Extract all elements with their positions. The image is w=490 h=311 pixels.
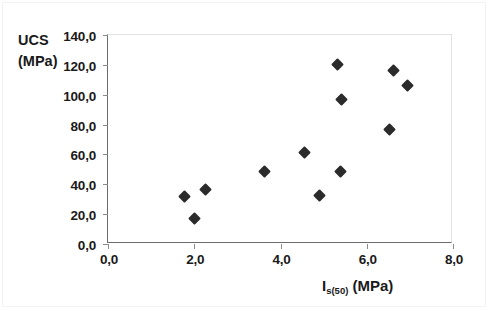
y-axis-tick-label: 0,0 (78, 238, 96, 253)
scatter-chart-figure: UCS (MPa) Is(50) (MPa) 0,020,040,060,080… (0, 0, 490, 311)
x-axis-title: Is(50) (MPa) (322, 277, 393, 294)
y-axis-tick-label: 80,0 (71, 118, 96, 133)
x-axis-tick-label: 8,0 (445, 252, 463, 267)
data-point (387, 64, 400, 77)
x-axis-tick: 0,0 (108, 244, 109, 249)
x-axis-tick: 6,0 (367, 244, 368, 249)
x-axis-tick-label: 6,0 (359, 252, 377, 267)
data-point (199, 183, 212, 196)
y-axis-tick-label: 60,0 (71, 148, 96, 163)
x-axis-title-tail: (MPa) (348, 277, 393, 294)
y-axis-tick-label: 40,0 (71, 178, 96, 193)
data-point (331, 58, 344, 71)
plot-area: 0,020,040,060,080,0100,0120,0140,0 0,02,… (107, 34, 452, 243)
data-point (335, 165, 348, 178)
y-axis-tick-label: 100,0 (63, 88, 96, 103)
data-point (298, 146, 311, 159)
x-axis-tick: 4,0 (281, 244, 282, 249)
data-point (313, 189, 326, 202)
data-point (188, 212, 201, 225)
y-axis-tick-label: 20,0 (71, 208, 96, 223)
x-axis-tick-label: 2,0 (186, 252, 204, 267)
data-points-layer (108, 35, 451, 242)
x-axis-tick: 8,0 (453, 244, 454, 249)
data-point (178, 191, 191, 204)
data-point (335, 94, 348, 107)
x-axis-tick: 2,0 (194, 244, 195, 249)
y-axis-title-line1: UCS (18, 32, 49, 48)
y-axis-tick-label: 120,0 (63, 58, 96, 73)
x-axis-tick-label: 0,0 (100, 252, 118, 267)
x-axis-tick-label: 4,0 (272, 252, 290, 267)
y-axis-tick-label: 140,0 (63, 29, 96, 44)
data-point (383, 123, 396, 136)
x-axis-title-subscript: s(50) (326, 285, 348, 296)
data-point (258, 165, 271, 178)
data-point (401, 79, 414, 92)
